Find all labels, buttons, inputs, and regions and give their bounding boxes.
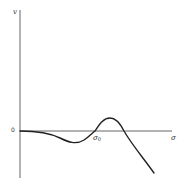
plot-area (0, 0, 188, 187)
sigma0-subscript: 0 (98, 136, 101, 142)
x-axis-label: σ (171, 135, 176, 142)
y-axis-label: v (13, 9, 17, 16)
sigma0-annotation: σ0 (93, 135, 101, 142)
curve-v-sigma (20, 118, 154, 173)
origin-tick-label: 0 (11, 127, 15, 133)
